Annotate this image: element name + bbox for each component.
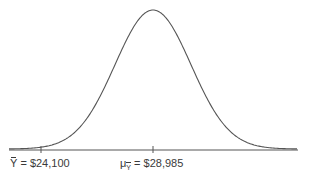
ybar-label: Y = $24,100 xyxy=(10,157,70,169)
ybar-symbol: Y xyxy=(10,157,17,169)
mu-label: μY = $28,985 xyxy=(120,157,183,171)
mu-subscript: Y xyxy=(126,162,131,174)
mu-value: = $28,985 xyxy=(134,157,183,169)
ybar-value: = $24,100 xyxy=(20,157,69,169)
normal-curve-chart xyxy=(0,0,309,181)
bell-curve xyxy=(9,10,297,149)
